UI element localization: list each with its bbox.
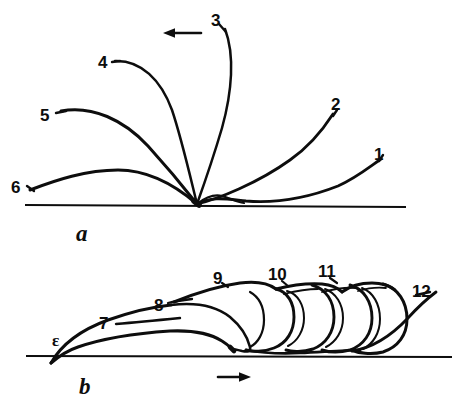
panel-b-baseline [26, 356, 452, 357]
panel-b-label-9: 9 [213, 270, 222, 287]
panel-b-label-10: 10 [268, 266, 286, 283]
panel-a-label-6: 6 [11, 179, 20, 196]
panel-a-label-2: 2 [331, 96, 340, 113]
panel-a-convergence-point [194, 201, 199, 205]
panel-a-group [25, 28, 406, 207]
arrow-left-icon [163, 28, 201, 38]
panel-a-label-4: 4 [98, 54, 107, 71]
arrow-right-icon [218, 372, 251, 382]
panel-b-letter: b [79, 375, 91, 398]
panel-a-label-3: 3 [211, 12, 220, 29]
panel-b-label-7: 7 [99, 315, 108, 332]
panel-a-label-1: 1 [374, 146, 383, 163]
panel-b-label-8: 8 [154, 297, 163, 314]
panel-a-leader-4 [112, 61, 120, 62]
panel-b-loop-3 [322, 285, 372, 352]
panel-b-leader-7 [116, 318, 180, 324]
panel-a-letter: a [76, 222, 88, 245]
panel-b-label-12: 12 [412, 283, 430, 300]
panel-b-epsilon-label: ε [52, 332, 59, 349]
panel-a-label-5: 5 [40, 107, 49, 124]
panel-a-curve-2 [197, 114, 333, 204]
panel-b-curve-8 [171, 304, 250, 351]
panel-a-baseline [25, 205, 406, 207]
panel-a-leader-5 [56, 111, 66, 113]
panel-b-group [26, 282, 452, 382]
panel-a-curve-4 [115, 61, 197, 204]
figure-svg [0, 0, 467, 404]
panel-b-curve-9 [51, 305, 171, 363]
panel-a-leaders [27, 24, 383, 191]
panel-b-loop-1-inner [250, 292, 264, 347]
panel-b-leader-8 [168, 299, 192, 303]
panel-a-curve-3 [197, 29, 231, 204]
panel-b-cusp-point [230, 347, 234, 351]
panel-b-loop-1 [246, 289, 294, 351]
panel-b-label-11: 11 [318, 263, 335, 280]
figure-container: 1 2 3 4 5 6 a ε 7 8 9 10 11 12 b [0, 0, 467, 404]
